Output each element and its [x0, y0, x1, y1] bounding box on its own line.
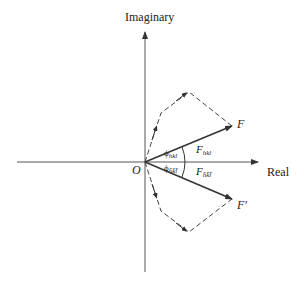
imaginary-axis-label: Imaginary: [125, 10, 174, 25]
phase-diagram: [0, 0, 304, 287]
magnitude-label-neg-hkl: Fh̄k̄l̄: [196, 165, 211, 179]
vector-f-label: F: [237, 117, 244, 132]
phase-arc-upper: [182, 147, 185, 162]
vector-f: [145, 126, 232, 162]
phase-arc-lower: [182, 162, 185, 177]
phase-label-neg-hkl: ϕh̄k̄l̄: [164, 163, 177, 175]
magnitude-label-hkl: Fhkl: [196, 143, 211, 157]
phase-label-hkl: ϕhkl: [164, 148, 177, 160]
vector-f-prime: [145, 162, 232, 199]
real-axis-label: Real: [267, 165, 289, 180]
dashed-path-lower: [145, 162, 232, 232]
vector-f-prime-label: F': [237, 198, 247, 213]
origin-label: O: [132, 163, 141, 178]
dashed-path-upper: [145, 92, 232, 162]
